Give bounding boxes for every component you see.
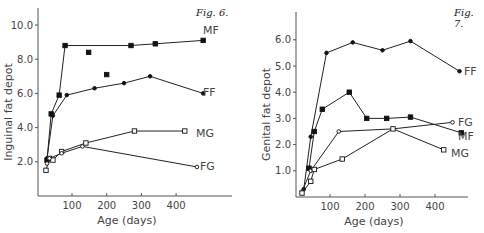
series-label-fg: FG: [458, 116, 473, 129]
data-point: [201, 38, 205, 42]
series-line-mg: [302, 129, 444, 193]
data-point: [320, 107, 324, 111]
data-point: [409, 39, 413, 43]
data-point: [385, 116, 389, 120]
data-point: [44, 168, 48, 172]
series-line-ff: [47, 76, 203, 158]
series-line-fg: [47, 146, 197, 167]
data-point: [45, 162, 49, 166]
data-point: [57, 93, 61, 97]
data-point: [312, 129, 316, 133]
data-point: [132, 129, 136, 133]
data-point: [442, 148, 446, 152]
fig6-chart: 2.04.06.08.010.0100200300400Age (days)In…: [2, 8, 232, 227]
y-tick-label: 10.0: [11, 20, 33, 31]
data-point: [365, 116, 369, 120]
data-point: [153, 42, 157, 46]
y-tick-label: 2.0: [275, 139, 291, 150]
y-tick-label: 4.0: [17, 122, 33, 133]
series-line-fg: [302, 122, 453, 191]
y-tick-label: 6.0: [17, 88, 33, 99]
charts-canvas: 2.04.06.08.010.0100200300400Age (days)In…: [0, 0, 484, 233]
series-line-ff: [304, 41, 460, 189]
x-axis-label: Age (days): [344, 215, 403, 228]
data-point: [65, 93, 69, 97]
x-tick-label: 200: [97, 200, 116, 211]
y-tick-label: 5.0: [275, 61, 291, 72]
x-tick-label: 400: [425, 201, 444, 212]
y-tick-label: 4.0: [275, 87, 291, 98]
y-tick-label: 8.0: [17, 54, 33, 65]
x-tick-label: 400: [167, 200, 186, 211]
data-point: [183, 129, 187, 133]
series-line-mf: [309, 92, 461, 168]
x-tick-label: 300: [132, 200, 151, 211]
series-label-mg: MG: [451, 147, 469, 160]
series-label-mf: MF: [203, 24, 219, 37]
x-tick-label: 100: [320, 201, 339, 212]
series-line-mg: [46, 131, 185, 170]
data-point: [309, 179, 313, 183]
series-line-mf: [47, 40, 203, 160]
data-point: [325, 51, 329, 55]
y-tick-label: 3.0: [275, 113, 291, 124]
y-tick-label: 6.0: [275, 34, 291, 45]
data-point: [81, 145, 85, 149]
data-point: [391, 127, 395, 131]
data-point: [195, 165, 199, 169]
data-point: [51, 114, 55, 118]
data-point: [84, 141, 88, 145]
data-point: [351, 41, 355, 45]
data-point: [347, 90, 351, 94]
x-tick-label: 100: [62, 200, 81, 211]
series-label-mf: MF: [458, 130, 474, 143]
data-point: [337, 130, 341, 134]
data-point: [93, 86, 97, 90]
data-point: [60, 151, 64, 155]
data-point: [122, 81, 126, 85]
series-label-fg: FG: [200, 160, 215, 173]
data-point: [381, 48, 385, 52]
data-point: [48, 157, 52, 161]
data-point: [458, 69, 462, 73]
y-tick-label: 1.0: [275, 165, 291, 176]
series-label-ff: FF: [203, 86, 216, 99]
y-axis-label: Inguinal fat depot: [2, 62, 15, 160]
data-point: [105, 72, 109, 76]
series-label-ff: FF: [464, 65, 477, 78]
series-label-mg: MG: [196, 127, 214, 140]
data-point: [63, 43, 67, 47]
y-axis-label: Genital fat depot: [260, 67, 273, 161]
y-tick-label: 2.0: [17, 156, 33, 167]
x-tick-label: 200: [355, 201, 374, 212]
data-point: [451, 121, 455, 125]
x-tick-label: 300: [390, 201, 409, 212]
data-point: [148, 75, 152, 79]
data-point: [309, 135, 313, 139]
fig7-chart: 1.02.03.04.05.06.0100200300400Age (days)…: [260, 12, 477, 228]
data-point: [312, 167, 316, 171]
x-axis-label: Age (days): [97, 214, 156, 227]
data-point: [129, 43, 133, 47]
data-point: [408, 115, 412, 119]
data-point: [86, 50, 90, 54]
data-point: [300, 191, 304, 195]
data-point: [340, 157, 344, 161]
